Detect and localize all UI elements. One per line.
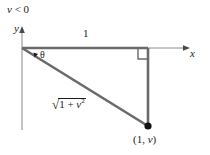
adjacent-length-label: 1 (83, 28, 89, 39)
x-axis-label: x (190, 48, 195, 59)
x-axis-arrowhead-icon (183, 45, 190, 51)
coordinate-open: (1, (133, 133, 148, 145)
radicand-prefix: 1 + (59, 98, 76, 110)
angle-theta-label: θ (40, 50, 45, 60)
radical-expression: √1 + v2 (52, 98, 86, 111)
diagram-canvas (0, 0, 210, 155)
right-angle-marker-icon (138, 49, 148, 59)
condition-variable: v (7, 3, 12, 15)
coordinate-close: ) (153, 133, 157, 145)
y-axis-label: y (14, 23, 19, 34)
case-condition-label: v < 0 (7, 4, 29, 15)
radicand-exponent: 2 (81, 97, 85, 105)
condition-relation: < 0 (15, 3, 29, 15)
vertex-point-marker (144, 122, 151, 129)
hypotenuse-length-label: √1 + v2 (52, 98, 86, 111)
trigonometry-diagram: v < 0 y x 1 θ √1 + v2 (1, v) (0, 0, 210, 155)
y-axis-arrowhead-icon (19, 26, 25, 33)
radicand: 1 + v2 (58, 98, 86, 110)
vertex-coordinate-label: (1, v) (133, 134, 156, 145)
